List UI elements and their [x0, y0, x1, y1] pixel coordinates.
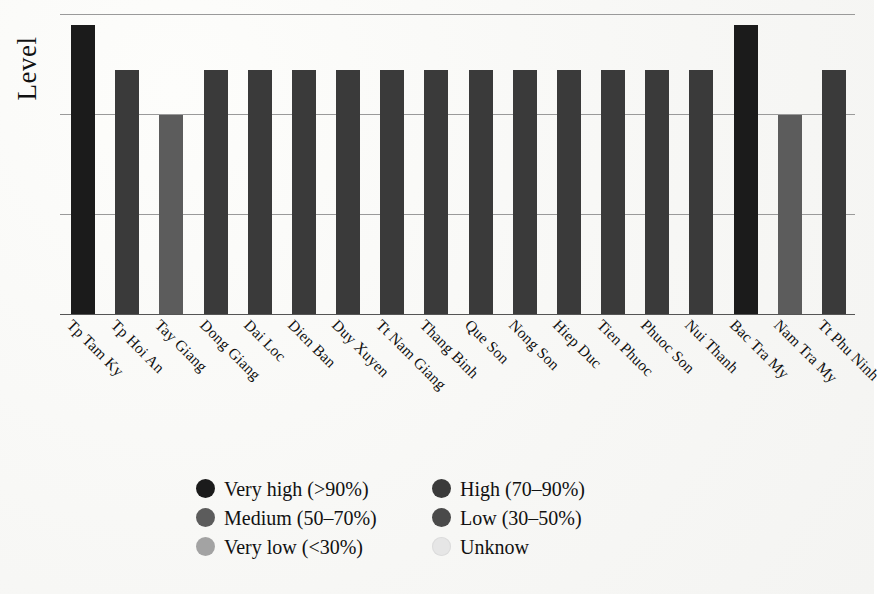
bar[interactable] — [734, 25, 758, 314]
chart-legend: Very high (>90%)High (70–90%)Medium (50–… — [196, 474, 666, 561]
bar[interactable] — [513, 70, 537, 314]
legend-swatch-icon — [196, 508, 215, 527]
bar[interactable] — [557, 70, 581, 314]
legend-item-low[interactable]: Low (30–50%) — [432, 508, 666, 528]
bar[interactable] — [292, 70, 316, 314]
bar[interactable] — [778, 115, 802, 314]
legend-swatch-icon — [432, 508, 451, 527]
bar[interactable] — [645, 70, 669, 314]
legend-swatch-icon — [196, 537, 215, 556]
legend-label: Very high (>90%) — [224, 479, 369, 499]
bar[interactable] — [601, 70, 625, 314]
bar[interactable] — [248, 70, 272, 314]
legend-label: Very low (<30%) — [224, 537, 363, 557]
legend-swatch-icon — [432, 537, 451, 556]
bar[interactable] — [424, 70, 448, 314]
bar[interactable] — [204, 70, 228, 314]
legend-swatch-icon — [432, 479, 451, 498]
bar[interactable] — [115, 70, 139, 314]
bar[interactable] — [822, 70, 846, 314]
x-axis-tick-labels: Tp Tam KyTp Hoi AnTay GiangDong GiangDai… — [60, 316, 855, 426]
legend-item-very_high[interactable]: Very high (>90%) — [196, 479, 432, 499]
bar-series — [60, 14, 855, 314]
axis-baseline — [60, 314, 855, 315]
legend-item-medium[interactable]: Medium (50–70%) — [196, 508, 432, 528]
legend-item-very_low[interactable]: Very low (<30%) — [196, 537, 432, 557]
bar[interactable] — [71, 25, 95, 314]
legend-item-unknown[interactable]: Unknow — [432, 537, 666, 557]
bar[interactable] — [469, 70, 493, 314]
y-axis-title-label: Level — [13, 36, 44, 100]
y-axis-title: Level — [6, 8, 50, 128]
bar[interactable] — [336, 70, 360, 314]
legend-item-high[interactable]: High (70–90%) — [432, 479, 666, 499]
legend-label: Unknow — [460, 537, 529, 557]
legend-label: Low (30–50%) — [460, 508, 582, 528]
legend-swatch-icon — [196, 479, 215, 498]
bar[interactable] — [689, 70, 713, 314]
plot-area — [60, 14, 855, 314]
bar[interactable] — [380, 70, 404, 314]
bar[interactable] — [159, 115, 183, 314]
legend-label: Medium (50–70%) — [224, 508, 377, 528]
legend-label: High (70–90%) — [460, 479, 585, 499]
